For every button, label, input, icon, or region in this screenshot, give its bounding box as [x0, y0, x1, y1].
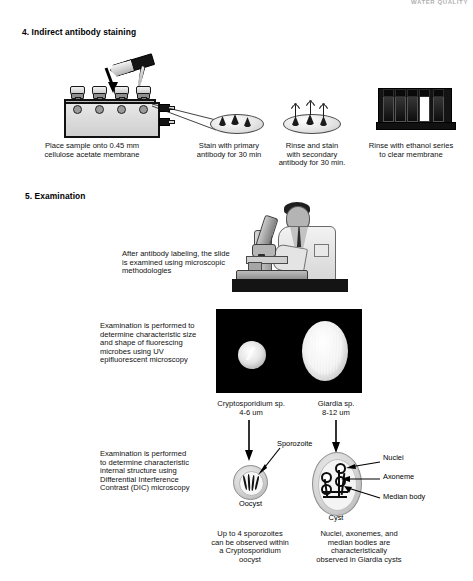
- microscope-caption: After antibody labeling, the slide is ex…: [122, 250, 247, 276]
- step-caption-ethanol-rinse: Rinse with ethanol series to clear membr…: [356, 142, 466, 159]
- nuclei-label: Nuclei: [383, 454, 404, 462]
- footer-caption-cryptosporidium: Up to 4 sporozoites can be observed with…: [200, 530, 300, 564]
- footer-caption-giardia: Nuclei, axonemes, and median bodies are …: [303, 530, 415, 564]
- oocyst-label: Oocyst: [234, 500, 267, 508]
- fluorescence-micrograph: [216, 309, 362, 393]
- sporozoite-label: Sporozoite: [277, 440, 312, 448]
- organism-size-giardia: 8-12 um: [300, 409, 372, 418]
- arrow-to-cyst-icon: [330, 420, 344, 454]
- dispense-arrow-icon: [100, 66, 122, 94]
- cyst-label: Cyst: [312, 514, 360, 522]
- median-body-leader-icon: [336, 484, 382, 502]
- step-caption-primary-antibody: Stain with primary antibody for 30 min: [187, 142, 271, 159]
- step-caption-secondary-antibody: Rinse and stain with secondary antibody …: [272, 142, 352, 168]
- membrane-dish-icon: [210, 108, 262, 132]
- section-heading-examination: 5. Examination: [25, 191, 86, 201]
- corner-watermark: WATER QUALITY: [411, 0, 468, 5]
- microscopist-illustration: [232, 200, 348, 292]
- median-body-label: Median body: [383, 493, 425, 501]
- dic-microscopy-caption: Examination is performed to determine ch…: [100, 450, 218, 493]
- cryptosporidium-fluorescence: [238, 341, 266, 369]
- section-heading-staining: 4. Indirect antibody staining: [22, 27, 136, 37]
- axoneme-leader-icon: [336, 474, 382, 484]
- step-caption-filtration: Place sample onto 0.45 mm cellulose acet…: [22, 142, 162, 159]
- sporozoite-leader-icon: [252, 446, 284, 478]
- uv-microscopy-caption: Examination is performed to determine ch…: [100, 322, 212, 365]
- protocol-page: WATER QUALITY 4. Indirect antibody stain…: [0, 0, 473, 581]
- axoneme-label: Axoneme: [383, 473, 414, 481]
- giardia-fluorescence: [302, 321, 348, 381]
- slide-rack-icon: [378, 88, 452, 126]
- labeled-membrane-dish-icon: [283, 96, 339, 132]
- nuclei-leader-icon: [340, 458, 382, 470]
- organism-size-cryptosporidium: 4-6 um: [205, 409, 297, 418]
